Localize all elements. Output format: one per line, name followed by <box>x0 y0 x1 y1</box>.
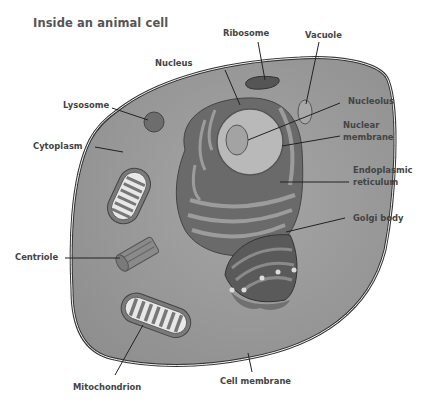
label-golgi-body: Golgi body <box>353 213 403 224</box>
label-nuclear-membrane-2: membrane <box>343 132 394 143</box>
label-centriole: Centriole <box>15 252 58 263</box>
nucleus <box>217 109 283 175</box>
label-vacuole: Vacuole <box>305 30 342 41</box>
label-mitochondrion: Mitochondrion <box>73 382 141 393</box>
label-nucleolus: Nucleolus <box>348 96 394 107</box>
label-cytoplasm: Cytoplasm <box>33 141 83 152</box>
nucleolus <box>226 125 248 155</box>
label-endoplasmic-reticulum-2: reticulum <box>353 177 398 188</box>
lysosome <box>144 112 164 132</box>
label-nuclear-membrane-1: Nuclear <box>343 120 379 131</box>
label-lysosome: Lysosome <box>63 100 109 111</box>
cell-diagram <box>0 0 434 410</box>
label-nucleus: Nucleus <box>155 58 192 69</box>
label-ribosome: Ribosome <box>223 28 269 39</box>
vacuole <box>298 100 312 124</box>
label-endoplasmic-reticulum-1: Endoplasmic <box>353 165 413 176</box>
label-cell-membrane: Cell membrane <box>220 376 291 387</box>
